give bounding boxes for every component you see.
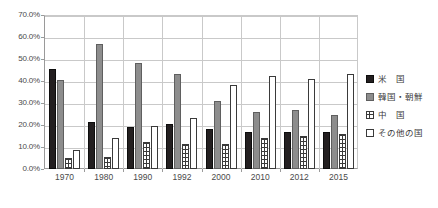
bar-us-2000: [206, 129, 213, 169]
y-axis-tick-label: 70.0%: [0, 11, 40, 19]
x-axis-tick-mark: [319, 169, 320, 172]
bar-cn-1992: [182, 144, 189, 169]
legend-item-us[interactable]: 米 国: [366, 70, 438, 88]
bar-other-2000: [230, 85, 237, 169]
legend-swatch-icon: [366, 93, 374, 101]
x-axis-label-1970: 1970: [45, 172, 84, 182]
bar-us-2010: [245, 132, 252, 169]
y-axis-tick-mark: [41, 59, 44, 60]
bar-kr-2012: [292, 110, 299, 169]
y-axis-tick-mark: [41, 125, 44, 126]
legend-item-other[interactable]: その他の国: [366, 124, 438, 142]
bar-group-1990: [123, 15, 162, 169]
bar-us-1990: [127, 127, 134, 169]
x-axis-tick-mark: [84, 169, 85, 172]
bar-cn-2012: [300, 136, 307, 169]
bar-cn-2000: [222, 144, 229, 169]
x-axis-tick-mark: [241, 169, 242, 172]
legend-item-kr[interactable]: 韓国・朝鮮: [366, 88, 438, 106]
y-axis-tick-label: 10.0%: [0, 143, 40, 151]
bar-other-2015: [347, 74, 354, 169]
bar-other-1990: [151, 126, 158, 169]
bar-kr-2010: [253, 112, 260, 169]
y-axis-tick-mark: [41, 147, 44, 148]
y-axis-tick-label: 0.0%: [0, 165, 40, 173]
x-axis-label-1980: 1980: [84, 172, 123, 182]
bar-us-1980: [88, 122, 95, 169]
bar-cn-2010: [261, 138, 268, 169]
bar-group-2010: [241, 15, 280, 169]
x-axis-label-1990: 1990: [123, 172, 162, 182]
bar-other-2010: [269, 76, 276, 170]
bar-kr-1980: [96, 44, 103, 169]
bar-us-1970: [49, 69, 56, 169]
x-axis-label-2010: 2010: [241, 172, 280, 182]
legend-swatch-icon: [366, 75, 374, 83]
bar-groups: [45, 15, 358, 169]
bar-group-1980: [84, 15, 123, 169]
legend-swatch-icon: [366, 129, 374, 137]
legend-label: 韓国・朝鮮: [378, 93, 423, 102]
y-axis-tick-label: 20.0%: [0, 121, 40, 129]
x-axis-tick-mark: [280, 169, 281, 172]
bar-cn-1980: [104, 157, 111, 169]
legend-swatch-icon: [366, 111, 374, 119]
x-axis-tick-mark: [123, 169, 124, 172]
y-axis-tick-label: 60.0%: [0, 33, 40, 41]
x-axis-tick-mark: [162, 169, 163, 172]
bar-group-2000: [202, 15, 241, 169]
bar-chart: 19701980199019922000201020122015 米 国韓国・朝…: [0, 0, 438, 208]
legend-label: 米 国: [378, 75, 405, 84]
y-axis-tick-mark: [41, 81, 44, 82]
legend-label: その他の国: [378, 129, 423, 138]
y-axis-tick-label: 30.0%: [0, 99, 40, 107]
bar-other-1992: [190, 118, 197, 169]
bar-kr-1990: [135, 63, 142, 169]
bar-other-1970: [73, 150, 80, 169]
bar-group-1992: [162, 15, 201, 169]
x-axis-label-2000: 2000: [202, 172, 241, 182]
x-axis-label-2015: 2015: [319, 172, 358, 182]
y-axis-tick-mark: [41, 37, 44, 38]
x-axis-label-1992: 1992: [162, 172, 201, 182]
bar-kr-2000: [214, 101, 221, 169]
bar-kr-1992: [174, 74, 181, 169]
bar-group-2015: [319, 15, 358, 169]
bar-kr-2015: [331, 115, 338, 169]
bar-other-1980: [112, 138, 119, 169]
y-axis-tick-mark: [41, 169, 44, 170]
x-axis-tick-mark: [202, 169, 203, 172]
bar-us-2015: [323, 132, 330, 169]
y-axis-tick-label: 50.0%: [0, 55, 40, 63]
x-axis-labels: 19701980199019922000201020122015: [45, 172, 358, 182]
y-axis-tick-mark: [41, 15, 44, 16]
bar-other-2012: [308, 79, 315, 169]
legend-label: 中 国: [378, 111, 405, 120]
bar-group-1970: [45, 15, 84, 169]
legend-item-cn[interactable]: 中 国: [366, 106, 438, 124]
x-axis-label-2012: 2012: [280, 172, 319, 182]
y-axis-tick-mark: [41, 103, 44, 104]
bar-cn-1990: [143, 142, 150, 170]
y-axis-tick-label: 40.0%: [0, 77, 40, 85]
bar-cn-1970: [65, 158, 72, 169]
chart-legend: 米 国韓国・朝鮮中 国その他の国: [366, 70, 438, 142]
bar-us-1992: [166, 124, 173, 169]
bar-kr-1970: [57, 80, 64, 169]
bar-us-2012: [284, 132, 291, 169]
bar-group-2012: [280, 15, 319, 169]
bar-cn-2015: [339, 134, 346, 169]
